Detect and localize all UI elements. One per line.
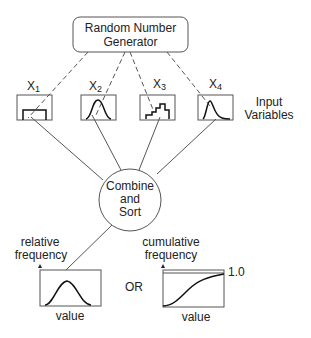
input-connectors — [31, 115, 216, 180]
normal-distribution-icon — [86, 100, 111, 119]
generator-connectors — [28, 52, 210, 118]
relative-ylabel-line1: relative — [21, 235, 60, 249]
combine-and-sort-node: Combine and Sort — [99, 169, 161, 231]
generator-line1: Random Number — [85, 21, 176, 35]
diagram-canvas: Random Number Generator X1 X2 X3 X4 Inpu… — [0, 0, 311, 338]
input-label-x4: X4 — [209, 77, 222, 92]
line-x1-to-combine — [31, 117, 103, 180]
input-x2-box — [81, 95, 116, 120]
line-combine-to-output — [66, 225, 112, 270]
random-number-generator: Random Number Generator — [73, 17, 188, 52]
y-axis-arrow-icon — [38, 264, 42, 268]
cumulative-ylabel-line2: frequency — [145, 248, 198, 262]
dash-to-x4 — [167, 52, 210, 106]
combine-line3: Sort — [119, 205, 142, 219]
relative-xlabel: value — [56, 309, 85, 323]
generator-line2: Generator — [103, 35, 157, 49]
line-x4-to-combine — [157, 119, 216, 174]
input-variables-line2: Variables — [244, 108, 293, 122]
line-x2-to-combine — [92, 115, 121, 170]
input-x1-box — [17, 95, 52, 120]
y-axis-arrow-icon — [161, 264, 165, 268]
relative-ylabel-line2: frequency — [15, 248, 68, 262]
bell-curve — [45, 281, 91, 305]
input-label-x2: X2 — [89, 79, 102, 94]
cumulative-ylabel-line1: cumulative — [142, 235, 200, 249]
cumulative-curve — [163, 274, 224, 306]
step-histogram-icon — [146, 104, 169, 119]
line-x3-to-combine — [139, 117, 160, 170]
input-variables-line1: Input — [256, 95, 283, 109]
input-x4-box — [198, 95, 233, 120]
combine-line2: and — [120, 192, 140, 206]
input-labels: X1 X2 X3 X4 — [27, 77, 222, 94]
input-label-x1: X1 — [27, 79, 40, 94]
cumulative-xlabel: value — [182, 310, 211, 324]
dash-to-x3 — [130, 52, 154, 112]
input-label-x3: X3 — [153, 77, 166, 92]
cumulative-max-label: 1.0 — [228, 265, 245, 279]
cumulative-frequency-chart: cumulative frequency 1.0 value — [142, 235, 245, 324]
input-x3-box — [140, 95, 175, 120]
combine-line1: Combine — [106, 179, 154, 193]
skewed-distribution-icon — [203, 101, 230, 119]
or-label: OR — [125, 280, 143, 294]
